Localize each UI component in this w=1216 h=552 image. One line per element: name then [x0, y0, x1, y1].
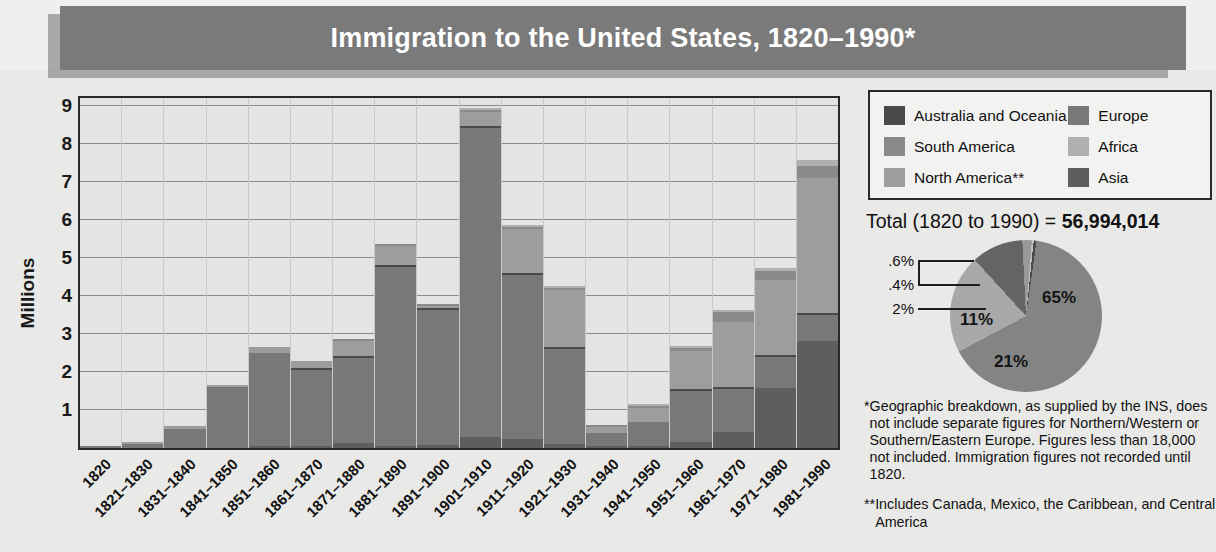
pie-callout-leader	[918, 284, 980, 286]
bar-column[interactable]	[670, 98, 712, 448]
legend-item[interactable]: Asia	[1068, 168, 1200, 187]
y-tick-1: 1	[61, 399, 72, 421]
bar-column[interactable]	[164, 98, 206, 448]
bar-segment	[460, 112, 501, 126]
legend-item[interactable]: Africa	[1068, 137, 1200, 156]
bar-column[interactable]	[628, 98, 670, 448]
plot-area	[78, 96, 840, 450]
bar-segment	[375, 267, 416, 446]
bar-column[interactable]	[544, 98, 586, 448]
legend-label: Australia and Oceania	[914, 107, 1067, 125]
bar-segment	[375, 446, 416, 448]
total-value: 56,994,014	[1062, 210, 1160, 232]
legend-swatch	[884, 137, 905, 156]
legend-swatch	[884, 106, 905, 125]
bar-segment	[544, 444, 585, 448]
bar-segment	[586, 446, 627, 448]
legend-item[interactable]: Europe	[1068, 106, 1200, 125]
bar-segment	[333, 358, 374, 444]
side-panel: Australia and OceaniaEuropeSouth America…	[860, 86, 1216, 552]
bar-segment	[291, 370, 332, 446]
legend-label: North America**	[914, 169, 1024, 187]
bar-segment	[797, 166, 838, 177]
bar-segment	[460, 128, 501, 436]
bar-column[interactable]	[713, 98, 755, 448]
y-axis-label: Millions	[17, 233, 39, 353]
bar-segment	[502, 275, 543, 439]
pie-chart: 65%21%11%.6%.4%2%	[950, 240, 1102, 392]
pie-callout-label: .6%	[866, 252, 914, 269]
bar-column[interactable]	[417, 98, 459, 448]
bar-segment	[713, 322, 754, 387]
bar-segment	[670, 351, 711, 389]
bar-segment	[713, 432, 754, 448]
footnote-text: Geographic breakdown, as supplied by the…	[870, 398, 1216, 483]
pie-callout-leader	[918, 308, 986, 310]
bar-column[interactable]	[122, 98, 164, 448]
bar-column[interactable]	[755, 98, 797, 448]
legend-label: Africa	[1098, 138, 1138, 156]
bar-segment	[80, 446, 121, 448]
bar-segment	[755, 357, 796, 387]
bar-series-container	[80, 98, 838, 448]
y-axis-ticks: 987654321	[46, 86, 72, 450]
legend-item[interactable]: South America	[884, 137, 1068, 156]
bar-segment	[502, 229, 543, 273]
bar-segment	[797, 315, 838, 342]
bar-segment	[586, 433, 627, 446]
y-tick-7: 7	[61, 171, 72, 193]
total-prefix: Total (1820 to 1990) =	[866, 210, 1062, 232]
bar-column[interactable]	[333, 98, 375, 448]
bar-segment	[375, 246, 416, 265]
bar-segment	[417, 310, 458, 445]
bar-segment	[628, 446, 669, 448]
footnote-text: Includes Canada, Mexico, the Caribbean, …	[875, 496, 1216, 530]
bar-segment	[164, 429, 205, 448]
bar-segment	[333, 443, 374, 448]
total-label: Total (1820 to 1990) = 56,994,014	[866, 210, 1159, 233]
bar-segment	[502, 439, 543, 449]
footnote: **Includes Canada, Mexico, the Caribbean…	[864, 496, 1216, 530]
bar-segment	[670, 391, 711, 442]
legend-item[interactable]: Australia and Oceania	[884, 106, 1068, 125]
legend-label: South America	[914, 138, 1015, 156]
footnotes: *Geographic breakdown, as supplied by th…	[864, 398, 1216, 544]
bar-segment	[755, 280, 796, 355]
x-label-slot: 1981–1990	[798, 454, 840, 552]
legend-swatch	[884, 168, 905, 187]
bar-column[interactable]	[460, 98, 502, 448]
legend-swatch	[1068, 137, 1089, 156]
bar-segment	[544, 290, 585, 348]
x-axis-labels: 18201821–18301831–18401841–18501851–1860…	[78, 454, 840, 552]
bar-segment	[713, 312, 754, 322]
legend-swatch	[1068, 106, 1089, 125]
bar-column[interactable]	[375, 98, 417, 448]
bar-segment	[755, 388, 796, 448]
bar-segment	[755, 271, 796, 280]
bar-column[interactable]	[291, 98, 333, 448]
bar-column[interactable]	[502, 98, 544, 448]
legend-item[interactable]: North America**	[884, 168, 1068, 187]
legend-row: Australia and OceaniaEurope	[884, 100, 1200, 131]
y-tick-9: 9	[61, 95, 72, 117]
bar-segment	[797, 160, 838, 167]
bar-segment	[713, 389, 754, 432]
page-title: Immigration to the United States, 1820–1…	[331, 23, 916, 54]
bar-column[interactable]	[249, 98, 291, 448]
bar-segment	[207, 387, 248, 448]
pie-slice-label: 21%	[994, 352, 1028, 372]
legend-label: Asia	[1098, 169, 1128, 187]
bar-segment	[249, 446, 290, 448]
infographic-root: Immigration to the United States, 1820–1…	[0, 0, 1216, 552]
bar-column[interactable]	[80, 98, 122, 448]
bar-segment	[628, 408, 669, 422]
bar-column[interactable]	[797, 98, 838, 448]
bar-segment	[670, 442, 711, 448]
pie-slice-label: 11%	[960, 310, 993, 330]
bar-column[interactable]	[207, 98, 249, 448]
title-banner: Immigration to the United States, 1820–1…	[60, 6, 1186, 70]
bar-segment	[291, 446, 332, 448]
bar-segment	[249, 353, 290, 446]
y-tick-4: 4	[61, 285, 72, 307]
bar-column[interactable]	[586, 98, 628, 448]
